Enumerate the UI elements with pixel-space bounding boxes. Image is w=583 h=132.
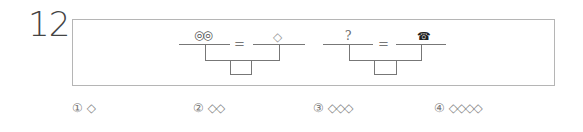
option-1[interactable]: ① ◇ xyxy=(72,101,95,115)
diamond-symbol: ◇ xyxy=(273,31,282,43)
option-value: ◇◇ xyxy=(208,101,224,115)
right-lhs-line xyxy=(323,44,373,45)
answer-box-left xyxy=(230,60,252,75)
double-circle-symbol: ◎◎ xyxy=(194,29,211,41)
equals-sign: = xyxy=(234,38,245,50)
question-box xyxy=(72,19,555,86)
option-marker: ② xyxy=(193,101,204,115)
right-connector-right xyxy=(421,44,422,60)
question-mark: ? xyxy=(345,30,351,42)
option-marker: ① xyxy=(72,101,83,115)
option-4[interactable]: ④ ◇◇◇◇ xyxy=(434,101,482,115)
option-value: ◇◇◇◇ xyxy=(449,101,482,115)
question-number: 12 xyxy=(28,4,69,44)
telephone-icon: ☎ xyxy=(417,31,431,43)
option-marker: ④ xyxy=(434,101,445,115)
right-connector xyxy=(349,44,350,60)
left-connector-right xyxy=(279,44,280,60)
option-marker: ③ xyxy=(313,101,324,115)
equals-sign: = xyxy=(378,38,389,50)
option-value: ◇ xyxy=(87,101,95,115)
left-connector xyxy=(205,44,206,60)
answer-box-right xyxy=(374,60,397,75)
option-value: ◇◇◇ xyxy=(328,101,353,115)
option-2[interactable]: ② ◇◇ xyxy=(193,101,224,115)
option-3[interactable]: ③ ◇◇◇ xyxy=(313,101,353,115)
